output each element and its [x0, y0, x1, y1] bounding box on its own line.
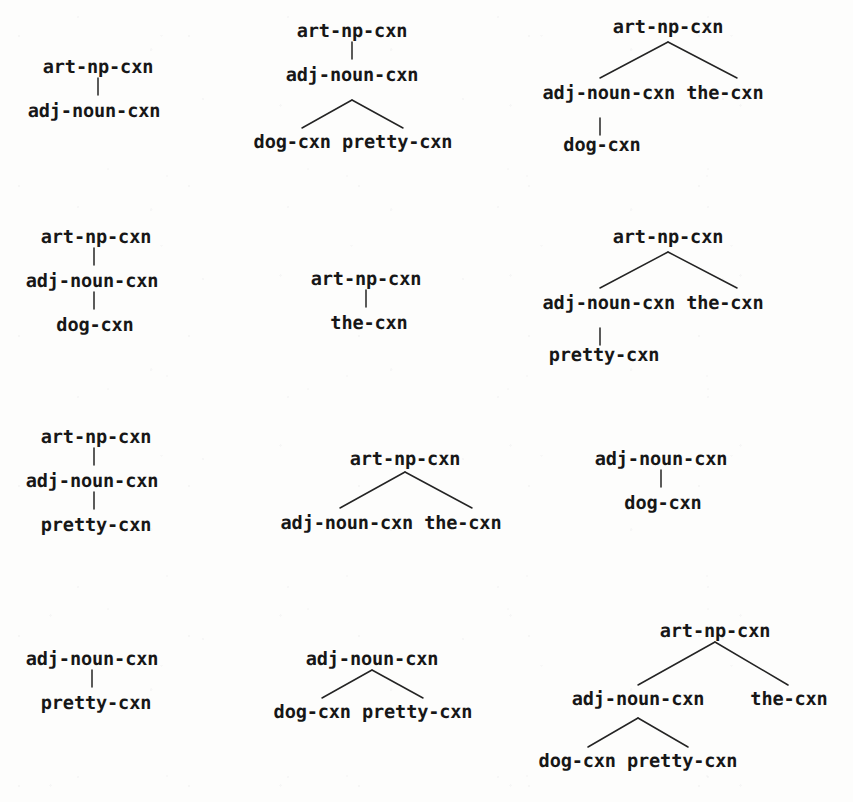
edge-art-np-to-the: [668, 42, 737, 78]
edge-adj-noun-to-dog: [322, 670, 372, 698]
edge-adj-noun-to-pretty: [372, 670, 423, 698]
tree-1-edges: [0, 0, 300, 180]
edge-art-np-to-the: [715, 642, 788, 685]
tree-3-node-adj-noun-cxn-the-cxn: adj-noun-cxn the-cxn: [543, 84, 764, 104]
tree-12-node-adj-noun-cxn: adj-noun-cxn: [572, 690, 705, 710]
tree-6-node-adj-noun-cxn-the-cxn: adj-noun-cxn the-cxn: [543, 294, 764, 314]
tree-6-edges: [515, 220, 853, 410]
tree-10-node-pretty-cxn: pretty-cxn: [41, 694, 151, 714]
tree-6-node-pretty-cxn: pretty-cxn: [549, 346, 659, 366]
tree-5-node-the-cxn: the-cxn: [330, 314, 407, 334]
tree-2-node-adj-noun-cxn: adj-noun-cxn: [286, 66, 419, 86]
tree-5-node-art-np-cxn: art-np-cxn: [311, 270, 421, 290]
edge-art-np-to-adj-noun: [340, 472, 405, 508]
tree-4-node-adj-noun-cxn: adj-noun-cxn: [26, 272, 159, 292]
tree-10-edges: [0, 620, 300, 760]
tree-8-node-adj-noun-cxn-the-cxn: adj-noun-cxn the-cxn: [281, 514, 502, 534]
edge-adj-noun-to-dog: [588, 718, 638, 747]
edge-adj-noun-to-dog: [302, 100, 352, 128]
edge-art-np-to-the: [405, 472, 472, 508]
tree-2-node-art-np-cxn: art-np-cxn: [297, 22, 407, 42]
tree-9-node-adj-noun-cxn: adj-noun-cxn: [595, 450, 728, 470]
tree-8-node-art-np-cxn: art-np-cxn: [350, 450, 460, 470]
tree-12-node-dog-cxn-pretty-cxn: dog-cxn pretty-cxn: [539, 752, 738, 772]
tree-11-node-dog-cxn-pretty-cxn: dog-cxn pretty-cxn: [274, 703, 473, 723]
tree-3-node-art-np-cxn: art-np-cxn: [613, 18, 723, 38]
tree-11-edges: [250, 620, 570, 760]
tree-4-node-art-np-cxn: art-np-cxn: [41, 228, 151, 248]
tree-2-node-dog-cxn-pretty-cxn: dog-cxn pretty-cxn: [254, 133, 453, 153]
tree-3-node-dog-cxn: dog-cxn: [563, 136, 640, 156]
tree-6-node-art-np-cxn: art-np-cxn: [613, 228, 723, 248]
tree-1-node-art-np-cxn: art-np-cxn: [43, 58, 153, 78]
edge-adj-noun-to-pretty: [638, 718, 688, 747]
tree-7-node-pretty-cxn: pretty-cxn: [41, 516, 151, 536]
tree-10-node-adj-noun-cxn: adj-noun-cxn: [26, 650, 159, 670]
edge-art-np-to-the: [668, 252, 737, 288]
tree-5-edges: [260, 240, 560, 380]
tree-4-edges: [0, 220, 300, 410]
tree-9-edges: [560, 420, 853, 560]
tree-12-node-the-cxn: the-cxn: [750, 690, 827, 710]
scanned-page: art-np-cxn adj-noun-cxn art-np-cxn adj-n…: [0, 0, 853, 802]
tree-7-node-adj-noun-cxn: adj-noun-cxn: [26, 472, 159, 492]
tree-12-node-art-np-cxn: art-np-cxn: [660, 622, 770, 642]
tree-9-node-dog-cxn: dog-cxn: [624, 494, 701, 514]
tree-4-node-dog-cxn: dog-cxn: [56, 316, 133, 336]
edge-art-np-to-adj-noun: [600, 42, 668, 78]
edge-art-np-to-adj-noun: [600, 252, 668, 288]
edge-art-np-to-adj-noun: [638, 642, 715, 685]
tree-11-node-adj-noun-cxn: adj-noun-cxn: [306, 650, 439, 670]
edge-adj-noun-to-pretty: [352, 100, 403, 128]
tree-7-node-art-np-cxn: art-np-cxn: [41, 428, 151, 448]
tree-1-node-adj-noun-cxn: adj-noun-cxn: [28, 102, 161, 122]
